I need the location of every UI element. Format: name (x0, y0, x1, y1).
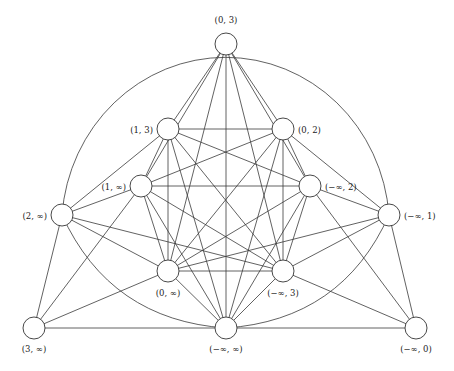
right-lower-arc (226, 215, 389, 328)
graph-node (157, 260, 179, 282)
edge (34, 215, 62, 328)
edge-layer (34, 44, 416, 328)
node-label: (0, 2) (298, 125, 321, 135)
node-label: (3, ∞) (22, 344, 47, 354)
node-label: (−∞, 0) (400, 344, 432, 354)
edge (62, 129, 168, 215)
graph-node (299, 175, 321, 197)
graph-node (215, 33, 237, 55)
graph-node (215, 317, 237, 339)
edge (141, 186, 168, 271)
graph-node (130, 175, 152, 197)
edge (34, 271, 168, 328)
node-label: (−∞, 1) (404, 211, 436, 221)
graph-node (51, 204, 73, 226)
node-label: (2, ∞) (22, 211, 47, 221)
graph-node (157, 118, 179, 140)
edge (310, 186, 416, 328)
node-label: (0, ∞) (156, 288, 181, 298)
edge (34, 186, 141, 328)
node-label: (−∞, 3) (267, 288, 299, 298)
edge (389, 215, 416, 328)
label-layer: (0, 3)(1, 3)(0, 2)(1, ∞)(−∞, 2)(2, ∞)(−∞… (22, 15, 436, 354)
edge (283, 215, 389, 271)
node-label: (−∞, ∞) (209, 344, 242, 354)
edge (283, 186, 310, 271)
edge (283, 271, 416, 328)
edge (226, 44, 310, 186)
left-lower-arc (62, 215, 226, 328)
edge (283, 129, 389, 215)
node-label: (1, ∞) (101, 182, 126, 192)
graph-diagram: (0, 3)(1, 3)(0, 2)(1, ∞)(−∞, 2)(2, ∞)(−∞… (0, 0, 454, 371)
edge (168, 186, 310, 271)
edge (141, 186, 283, 271)
edge (226, 186, 310, 328)
arc-layer (62, 57, 389, 328)
edge (226, 44, 283, 129)
node-label: (1, 3) (130, 125, 153, 135)
edge (141, 44, 226, 186)
graph-node (405, 317, 427, 339)
edge (62, 215, 168, 271)
node-label: (−∞, 2) (325, 182, 357, 192)
graph-node (272, 118, 294, 140)
edge (141, 186, 226, 328)
graph-node (272, 260, 294, 282)
graph-node (378, 204, 400, 226)
edge (168, 44, 226, 129)
graph-node (23, 317, 45, 339)
node-label: (0, 3) (215, 15, 238, 25)
